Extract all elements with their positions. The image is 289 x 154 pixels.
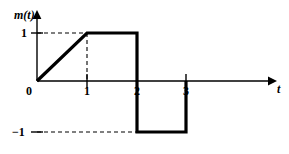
y-tick-label-minus-1: −1 [12,126,25,138]
plot-canvas [0,0,289,154]
x-tick-label-2: 2 [134,85,140,97]
x-axis-label: t [277,83,280,95]
x-axis [37,77,277,86]
y-axis-label: m(t) [14,9,35,21]
origin-label: 0 [26,85,32,97]
y-tick-label-1: 1 [21,27,27,39]
x-tick-label-3: 3 [183,85,189,97]
waveform-figure: m(t) t 1 −1 0 1 2 3 [0,0,289,154]
waveform-trace [37,33,186,132]
x-tick-label-1: 1 [84,85,90,97]
